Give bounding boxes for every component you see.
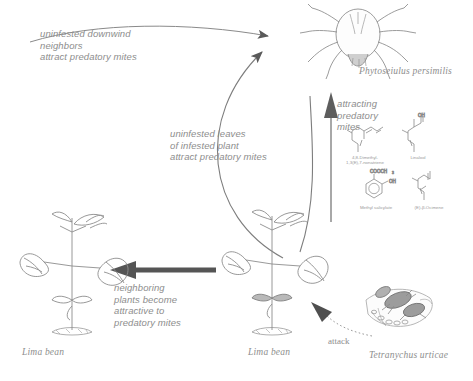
svg-text:OH: OH (418, 113, 425, 118)
chemical-name-methyl-salicylate: Methyl salicylate (347, 205, 405, 210)
svg-text:3: 3 (392, 171, 394, 175)
svg-text:COOCH: COOCH (370, 169, 387, 174)
chemical-name-nonatriene: 4,8-Dimethyl- 1,3(E),7-nonatriene (338, 155, 392, 165)
plant-left (20, 212, 128, 335)
structure-ocimene (412, 171, 430, 200)
diagram-canvas: OH COOCH 3 OH uninfested downwind neighb… (0, 0, 473, 381)
svg-text:OH: OH (389, 179, 396, 184)
annotation-neighboring-plants: neighboring plants become attractive to … (114, 282, 181, 328)
plant-label-right: Lima bean (248, 347, 290, 357)
plant-label-left: Lima bean (22, 347, 64, 357)
structure-linalool: OH (402, 113, 425, 152)
chemical-name-linalool: Linalool (398, 155, 438, 160)
annotation-attracting-predatory-mites: attracting predatory mites (337, 98, 378, 133)
structure-methyl-salicylate: COOCH 3 OH (366, 169, 396, 198)
arrow-attracting-predatory-mites (324, 92, 338, 222)
species-label-predator: Phytoseiulus persimilis (359, 66, 452, 76)
annotation-downwind-neighbors: uninfested downwind neighbors attract pr… (40, 28, 137, 63)
arrow-to-neighboring-plant (110, 261, 216, 279)
plant-right (222, 210, 328, 335)
annotation-uninfested-leaves: uninfested leaves of infested plant attr… (170, 128, 267, 163)
annotation-attack: attack (328, 336, 350, 346)
curve-volatile-plume (300, 96, 313, 252)
arrow-attack (311, 302, 372, 336)
species-label-herbivore: Tetranychus urticae (369, 350, 448, 360)
spider-mite-colony-illustration (366, 284, 432, 326)
chemical-name-ocimene: (E)-β-Ocimene (404, 205, 454, 210)
